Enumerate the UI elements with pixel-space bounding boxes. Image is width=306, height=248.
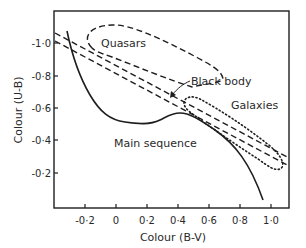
main-sequence-curve	[67, 31, 263, 200]
y-tick-label: -1·0	[31, 38, 51, 49]
x-tick-label: 0·4	[170, 215, 186, 226]
quasars-label: Quasars	[101, 37, 146, 50]
black-body-label: Black body	[191, 75, 252, 88]
galaxies-label: Galaxies	[231, 99, 278, 112]
y-tick-label: -0·4	[31, 135, 51, 146]
x-tick-label: -0·2	[75, 215, 95, 226]
x-tick-label: 0	[113, 215, 119, 226]
y-tick-label: -0·8	[31, 71, 51, 82]
x-tick-label: 0·6	[201, 215, 217, 226]
x-tick-label: 0·2	[139, 215, 155, 226]
y-tick-label: -0·6	[31, 103, 51, 114]
x-tick-label: 1·0	[263, 215, 279, 226]
main-sequence-label: Main sequence	[114, 137, 197, 150]
y-tick-labels: -1·0 -0·8 -0·6 -0·4 -0·2	[31, 38, 51, 179]
colour-colour-chart: -1·0 -0·8 -0·6 -0·4 -0·2 -0·2 0 0·2 0·4 …	[0, 0, 306, 248]
x-tick-label: 0·8	[232, 215, 248, 226]
x-axis-title: Colour (B-V)	[140, 231, 206, 244]
x-tick-labels: -0·2 0 0·2 0·4 0·6 0·8 1·0	[75, 215, 279, 226]
y-axis-title: Colour (U-B)	[12, 77, 25, 144]
y-tick-label: -0·2	[31, 168, 51, 179]
